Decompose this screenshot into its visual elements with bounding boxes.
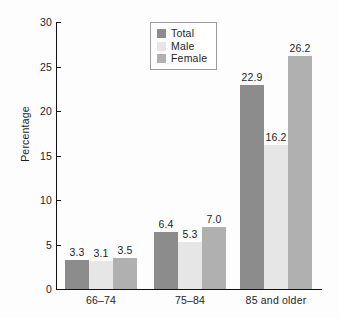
bar[interactable] (154, 232, 178, 289)
chart-legend: TotalMaleFemale (150, 22, 217, 70)
y-axis-tick-label: 5 (4, 239, 52, 251)
x-axis-line (56, 289, 322, 290)
bar[interactable] (65, 260, 89, 289)
y-axis-tick-label: 0 (4, 283, 52, 295)
x-axis-label: 66–74 (65, 294, 137, 306)
bar-column[interactable]: 3.3 (65, 22, 89, 289)
legend-label: Total (171, 28, 194, 39)
y-axis-tick-label: 15 (4, 150, 52, 162)
legend-item[interactable]: Female (157, 53, 207, 65)
bar[interactable] (89, 261, 113, 289)
bar-chart: Percentage 051015202530 3.33.13.56.45.37… (0, 0, 339, 318)
bar[interactable] (178, 242, 202, 289)
x-axis-label: 85 and older (240, 294, 312, 306)
legend-item[interactable]: Total (157, 28, 207, 40)
bar-column[interactable]: 3.1 (89, 22, 113, 289)
legend-label: Female (171, 53, 207, 64)
y-axis-tick-label: 25 (4, 61, 52, 73)
bar-value-label: 5.3 (182, 228, 197, 240)
bar-column[interactable]: 16.2 (264, 22, 288, 289)
bar-value-label: 3.3 (69, 246, 84, 258)
bar-column[interactable]: 3.5 (113, 22, 137, 289)
y-axis-tick-label: 20 (4, 105, 52, 117)
bar[interactable] (202, 227, 226, 289)
y-axis-tick-label: 10 (4, 194, 52, 206)
bar-value-label: 3.1 (93, 247, 108, 259)
legend-label: Male (171, 41, 195, 52)
bar[interactable] (113, 258, 137, 289)
bar-value-label: 3.5 (117, 244, 132, 256)
bar-value-label: 6.4 (158, 218, 173, 230)
bar-group: 3.33.13.5 (65, 22, 137, 289)
legend-swatch-icon (157, 54, 166, 63)
bar-value-label: 16.2 (265, 131, 286, 143)
legend-swatch-icon (157, 42, 166, 51)
bar-value-label: 7.0 (206, 213, 221, 225)
bar-group: 22.916.226.2 (240, 22, 312, 289)
bar-column[interactable]: 26.2 (288, 22, 312, 289)
x-axis-label: 75–84 (154, 294, 226, 306)
bar[interactable] (240, 85, 264, 289)
bar[interactable] (288, 56, 312, 289)
bar-value-label: 22.9 (241, 71, 262, 83)
y-axis-title: Percentage (19, 84, 31, 184)
legend-item[interactable]: Male (157, 40, 207, 52)
legend-swatch-icon (157, 29, 166, 38)
bar-column[interactable]: 22.9 (240, 22, 264, 289)
y-axis-tick-label: 30 (4, 16, 52, 28)
bar[interactable] (264, 145, 288, 289)
bar-value-label: 26.2 (289, 42, 310, 54)
